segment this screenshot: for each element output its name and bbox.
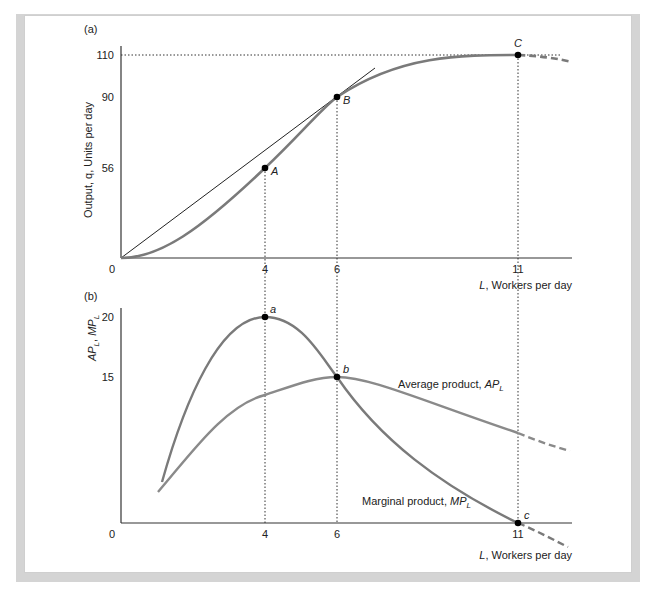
marginal-product-label: Marginal product, MPL [362, 495, 471, 510]
point-b [334, 374, 341, 381]
y-tick-110: 110 [96, 49, 114, 61]
average-product-curve-dashed [518, 433, 570, 451]
total-product-curve [121, 55, 518, 258]
y-axis-label-output: Output, q, Units per day [82, 101, 94, 218]
x-tick-0-a: 0 [109, 263, 115, 275]
point-B-label: B [343, 94, 350, 106]
y-axis-label-ap-mp: APL, MPL [86, 315, 101, 362]
x-tick-6-b: 6 [334, 528, 340, 540]
panel-a-label: (a) [84, 23, 97, 35]
marginal-product-curve-dashed [518, 523, 568, 547]
point-a [262, 314, 269, 321]
point-c-label: c [524, 509, 530, 521]
point-B [334, 94, 341, 101]
y-tick-20: 20 [102, 311, 114, 323]
y-tick-56: 56 [102, 162, 114, 174]
point-C-label: C [514, 37, 522, 49]
panel-b: (b) APL, MPL 20 15 0 4 6 11 L, Workers p… [84, 290, 572, 561]
point-A-label: A [270, 165, 278, 177]
x-tick-0-b: 0 [109, 528, 115, 540]
point-c [515, 520, 522, 527]
x-axis-label-b: L, Workers per day [479, 549, 572, 561]
x-tick-4-b: 4 [262, 528, 268, 540]
production-chart: (a) Output, q, Units per day 110 90 56 0… [0, 0, 657, 593]
x-tick-11-b: 11 [512, 528, 523, 540]
total-product-curve-dashed [518, 55, 572, 62]
average-product-curve [158, 377, 518, 492]
marginal-product-curve [162, 317, 518, 523]
average-product-label: Average product, APL [398, 378, 504, 393]
point-b-label: b [343, 363, 349, 375]
panel-a: (a) Output, q, Units per day 110 90 56 0… [82, 23, 572, 523]
point-A [262, 165, 269, 172]
y-tick-15: 15 [102, 371, 114, 383]
panel-b-label: (b) [84, 290, 97, 302]
x-axis-label-a: L, Workers per day [479, 279, 572, 291]
y-tick-90: 90 [102, 91, 114, 103]
point-a-label: a [270, 303, 276, 315]
point-C [515, 52, 522, 59]
